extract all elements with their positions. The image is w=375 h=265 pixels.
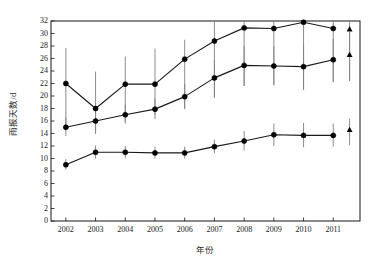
error-bars	[66, 21, 333, 170]
plot-area	[0, 0, 375, 265]
extra-triangle-markers	[347, 21, 353, 145]
series-markers	[63, 20, 335, 168]
series-lines	[66, 22, 333, 165]
chart-figure: 雨报天数/d 年份 02468101214161820222426283032 …	[0, 0, 375, 265]
